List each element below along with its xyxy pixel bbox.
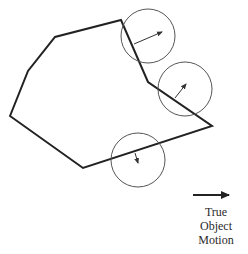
legend-line-3: Motion xyxy=(190,233,242,247)
local-motion-arrow-icon xyxy=(134,32,162,44)
legend-line-2: Object xyxy=(190,219,242,233)
local-motion-arrow-icon xyxy=(135,153,138,163)
legend-line-1: True xyxy=(190,205,242,219)
legend-label: True Object Motion xyxy=(190,205,242,247)
aperture-top xyxy=(121,9,175,63)
object-outline xyxy=(10,20,212,168)
aperture-bottom xyxy=(111,133,165,187)
local-motion-arrow-icon xyxy=(175,84,186,98)
